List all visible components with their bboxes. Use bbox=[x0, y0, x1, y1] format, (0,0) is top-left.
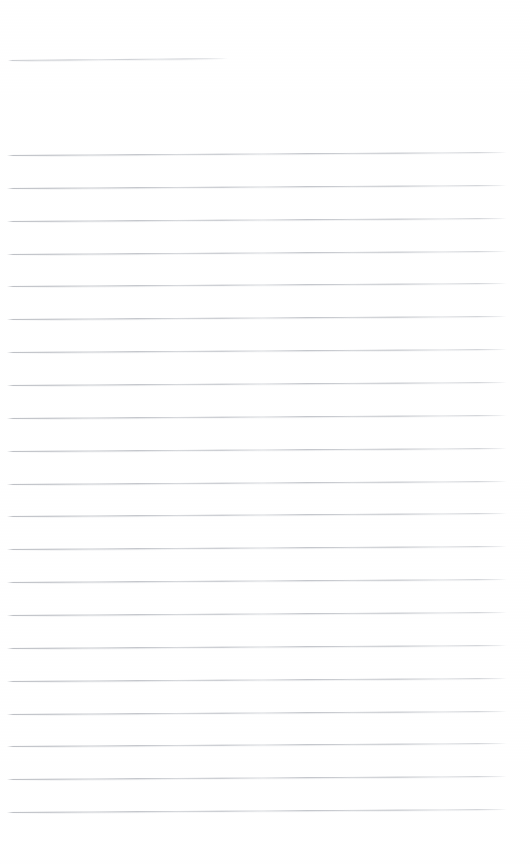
ruled-line-5 bbox=[7, 283, 507, 287]
ruled-line-4 bbox=[7, 251, 507, 255]
ruled-line-1 bbox=[7, 152, 507, 156]
ruled-line-7 bbox=[7, 349, 507, 353]
ruled-line-10 bbox=[7, 448, 507, 452]
ruled-line-20 bbox=[7, 776, 507, 780]
ruled-line-15 bbox=[7, 612, 507, 616]
ruled-line-18 bbox=[7, 711, 507, 715]
ruled-line-8 bbox=[7, 382, 507, 386]
ruled-line-16 bbox=[7, 645, 507, 649]
ruled-line-14 bbox=[7, 579, 507, 583]
ruled-line-3 bbox=[7, 218, 507, 222]
document-page bbox=[0, 0, 530, 864]
ruled-line-2 bbox=[7, 185, 507, 189]
ruled-lines-region bbox=[0, 0, 530, 864]
ruled-line-9 bbox=[7, 415, 507, 419]
ruled-line-6 bbox=[7, 316, 507, 320]
ruled-line-19 bbox=[7, 743, 507, 747]
ruled-line-13 bbox=[7, 546, 507, 550]
ruled-line-21 bbox=[7, 809, 507, 813]
ruled-line-17 bbox=[7, 678, 507, 682]
ruled-line-12 bbox=[7, 513, 507, 517]
ruled-line-11 bbox=[7, 481, 507, 485]
